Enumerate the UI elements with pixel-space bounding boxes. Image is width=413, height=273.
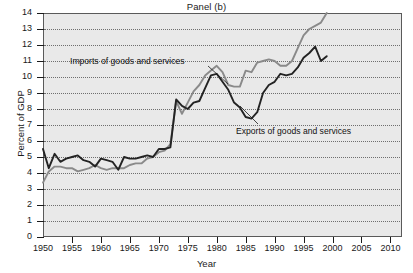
- gridline-12: [44, 45, 402, 46]
- y-tick-label-12: 12: [2, 40, 32, 49]
- y-tick-label-3: 3: [2, 184, 32, 193]
- y-tick-14: [37, 13, 44, 14]
- y-tick-label-0: 0: [2, 232, 32, 241]
- x-tick-label-2010: 2010: [370, 243, 410, 253]
- y-tick-6: [37, 141, 44, 142]
- exports-annotation-label: Exports of goods and services: [236, 126, 351, 136]
- y-tick-3: [37, 189, 44, 190]
- y-tick-label-5: 5: [2, 152, 32, 161]
- y-tick-label-6: 6: [2, 136, 32, 145]
- y-tick-10: [37, 77, 44, 78]
- y-tick-7: [37, 125, 44, 126]
- y-tick-label-9: 9: [2, 88, 32, 97]
- gridline-14: [44, 13, 402, 14]
- gridline-10: [44, 77, 402, 78]
- y-tick-9: [37, 93, 44, 94]
- gridline-8: [44, 109, 402, 110]
- y-tick-12: [37, 45, 44, 46]
- y-tick-label-7: 7: [2, 120, 32, 129]
- y-tick-13: [37, 29, 44, 30]
- y-tick-label-10: 10: [2, 72, 32, 81]
- plot-area: [43, 13, 402, 237]
- y-tick-4: [37, 173, 44, 174]
- gridline-3: [44, 189, 402, 190]
- y-tick-label-4: 4: [2, 168, 32, 177]
- y-tick-label-2: 2: [2, 200, 32, 209]
- y-tick-label-14: 14: [2, 8, 32, 17]
- y-tick-label-8: 8: [2, 104, 32, 113]
- y-tick-label-1: 1: [2, 216, 32, 225]
- imports-annotation-label: Imports of goods and services: [70, 56, 185, 66]
- gridline-4: [44, 173, 402, 174]
- y-tick-0: [37, 237, 44, 238]
- gridline-5: [44, 157, 402, 158]
- gridline-2: [44, 205, 402, 206]
- x-axis-title: Year: [0, 258, 413, 269]
- gridline-6: [44, 141, 402, 142]
- y-tick-8: [37, 109, 44, 110]
- panel-title: Panel (b): [0, 1, 413, 12]
- gridline-9: [44, 93, 402, 94]
- y-tick-label-11: 11: [2, 56, 32, 65]
- y-tick-label-13: 13: [2, 24, 32, 33]
- y-tick-5: [37, 157, 44, 158]
- y-tick-1: [37, 221, 44, 222]
- gridline-1: [44, 221, 402, 222]
- y-tick-2: [37, 205, 44, 206]
- y-tick-11: [37, 61, 44, 62]
- gridline-13: [44, 29, 402, 30]
